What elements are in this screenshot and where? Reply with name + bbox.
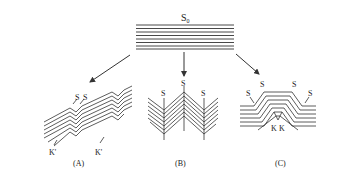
label-s: S xyxy=(75,93,79,102)
label-s: S xyxy=(83,93,87,102)
label-k-prime: K' xyxy=(95,148,103,157)
panel-a-structure xyxy=(44,86,132,146)
caption-a: (A) xyxy=(73,159,84,168)
caption-c: (C) xyxy=(275,159,286,168)
label-k-prime: K' xyxy=(49,148,57,157)
top-lamellae-stack xyxy=(136,25,234,49)
label-s: S xyxy=(292,80,296,89)
panel-b-structure xyxy=(148,86,218,140)
label-k: K xyxy=(271,124,277,133)
panel-c-structure xyxy=(240,92,316,130)
label-s: S xyxy=(308,89,312,98)
panel-c-labels: S S S S K K (C) xyxy=(246,80,312,168)
label-s: S xyxy=(161,89,165,98)
label-s: S xyxy=(246,89,250,98)
caption-b: (B) xyxy=(175,159,186,168)
arrow-to-c-icon xyxy=(236,54,259,74)
label-s: S xyxy=(260,80,264,89)
label-s: S xyxy=(181,79,185,88)
top-stack-label: S0 xyxy=(181,12,190,24)
lamellae-transformation-diagram: S0 S S K' K' (A) xyxy=(0,0,339,192)
arrow-to-a-icon xyxy=(90,55,130,82)
label-s: S xyxy=(201,89,205,98)
transformation-arrows xyxy=(90,52,259,82)
label-k: K xyxy=(279,124,285,133)
